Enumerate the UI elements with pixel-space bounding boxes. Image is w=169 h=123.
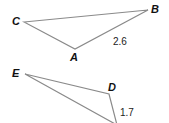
triangle-diagram: C B A 2.6 E D 1.7 <box>0 0 169 123</box>
vertex-label-d: D <box>108 81 116 93</box>
triangle-abc: C B A 2.6 <box>12 3 159 63</box>
side-length-df: 1.7 <box>120 107 134 118</box>
vertex-label-a: A <box>69 51 78 63</box>
vertex-label-c: C <box>12 15 21 27</box>
vertex-label-b: B <box>151 3 159 15</box>
triangle-def-outline <box>25 74 117 123</box>
side-length-ab: 2.6 <box>113 36 127 47</box>
vertex-label-e: E <box>12 67 20 79</box>
triangle-abc-outline <box>24 10 148 49</box>
triangle-def: E D 1.7 <box>12 67 134 123</box>
